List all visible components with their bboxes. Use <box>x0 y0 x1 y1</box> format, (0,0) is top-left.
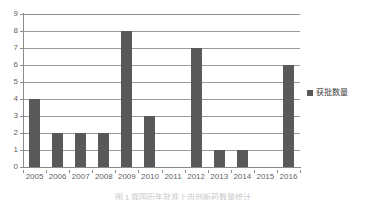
y-tick-mark-1 <box>20 150 23 151</box>
x-tick-mark-2 <box>69 170 70 173</box>
x-tick-mark-1 <box>46 170 47 173</box>
x-axis-tick-labels: 2005200620072008200920102011201220132014… <box>23 170 301 184</box>
y-tick-mark-3 <box>20 116 23 117</box>
y-tick-mark-9 <box>20 14 23 15</box>
x-tick-mark-0 <box>23 170 24 173</box>
y-tick-label-0: 0 <box>2 163 18 171</box>
y-axis-line <box>23 13 24 168</box>
x-tick-mark-end <box>300 170 301 173</box>
bar-2005 <box>29 99 40 167</box>
x-tick-mark-7 <box>185 170 186 173</box>
legend-swatch-icon <box>307 90 313 96</box>
bar-2008 <box>98 133 109 167</box>
y-tick-mark-4 <box>20 99 23 100</box>
y-tick-mark-2 <box>20 133 23 134</box>
y-tick-mark-5 <box>20 82 23 83</box>
y-tick-label-6: 6 <box>2 61 18 69</box>
x-tick-mark-9 <box>231 170 232 173</box>
y-tick-label-1: 1 <box>2 146 18 154</box>
x-tick-mark-3 <box>92 170 93 173</box>
y-tick-label-9: 9 <box>2 10 18 18</box>
legend-label: 获批数量 <box>316 88 348 97</box>
y-tick-label-7: 7 <box>2 44 18 52</box>
y-tick-label-3: 3 <box>2 112 18 120</box>
y-tick-mark-6 <box>20 65 23 66</box>
y-tick-label-5: 5 <box>2 78 18 86</box>
x-tick-label-2016: 2016 <box>275 172 301 181</box>
bar-2013 <box>214 150 225 167</box>
bar-2009 <box>121 31 132 167</box>
bar-series-获批数量 <box>23 14 300 167</box>
x-tick-label-2011: 2011 <box>160 172 186 181</box>
x-tick-label-2014: 2014 <box>229 172 255 181</box>
bar-2012 <box>191 48 202 167</box>
x-tick-mark-8 <box>208 170 209 173</box>
figure-caption: 图 1 我国历年批准上市创新药数量统计 <box>0 192 366 200</box>
bar-2006 <box>52 133 63 167</box>
x-tick-label-2005: 2005 <box>22 172 48 181</box>
x-tick-mark-5 <box>138 170 139 173</box>
x-tick-mark-6 <box>162 170 163 173</box>
bar-2010 <box>144 116 155 167</box>
y-tick-label-4: 4 <box>2 95 18 103</box>
y-tick-mark-0 <box>20 167 23 168</box>
y-tick-mark-7 <box>20 48 23 49</box>
y-tick-mark-8 <box>20 31 23 32</box>
y-tick-label-8: 8 <box>2 27 18 35</box>
x-axis-line <box>23 167 301 168</box>
x-tick-mark-10 <box>254 170 255 173</box>
y-tick-label-2: 2 <box>2 129 18 137</box>
plot-area <box>23 14 300 167</box>
x-tick-mark-11 <box>277 170 278 173</box>
bar-chart: 0123456789 20052006200720082009201020112… <box>0 0 366 200</box>
bar-2016 <box>283 65 294 167</box>
x-tick-mark-4 <box>115 170 116 173</box>
bar-2007 <box>75 133 86 167</box>
bar-2014 <box>237 150 248 167</box>
chart-legend: 获批数量 <box>307 88 348 97</box>
x-tick-label-2008: 2008 <box>91 172 117 181</box>
